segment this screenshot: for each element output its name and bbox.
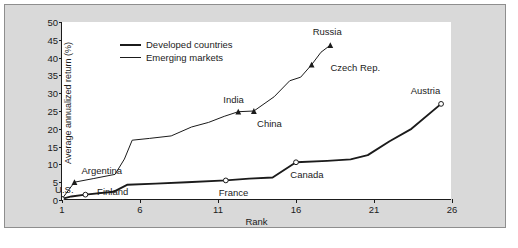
x-tick-label: 21 [369,204,380,215]
x-tick-label: 1 [59,204,64,215]
data-point-marker [327,42,333,48]
data-point-marker [62,197,64,200]
y-tick-label: 15 [36,141,58,152]
legend-item: Emerging markets [120,51,233,64]
legend-item: Developed countries [120,38,233,51]
point-label: Finland [97,185,128,196]
y-tick-label: 20 [36,123,58,134]
x-tick-label: 6 [137,204,142,215]
x-tick-label: 16 [291,204,302,215]
data-point-marker [223,178,228,183]
figure-panel: Average annualized return (%) 0510152025… [4,4,506,228]
y-tick-label: 0 [36,195,58,206]
data-point-marker [83,192,88,197]
data-point-marker [294,160,299,165]
point-label: India [223,93,244,104]
chart-screenshot: Average annualized return (%) 0510152025… [0,0,518,248]
y-tick-label: 50 [36,17,58,28]
point-label: China [257,118,282,129]
point-label: Czech Rep. [330,62,380,73]
point-label: U.S. [55,183,73,194]
x-tick-label: 11 [213,204,223,215]
y-tick-label: 30 [36,88,58,99]
y-tick-label: 25 [36,106,58,117]
y-tick-label: 35 [36,70,58,81]
data-point-marker [439,101,444,106]
point-label: Argentina [81,165,122,176]
point-label: Austria [411,85,441,96]
point-label: Russia [313,26,342,37]
x-axis-title: Rank [62,216,451,227]
legend-label: Developed countries [146,39,233,50]
point-label: Canada [290,169,323,180]
legend-label: Emerging markets [146,52,223,63]
legend-line-swatch [120,57,141,58]
chart-legend: Developed countriesEmerging markets [120,38,233,64]
x-tick-label: 26 [447,204,458,215]
y-tick-label: 40 [36,52,58,63]
legend-line-swatch [120,44,141,46]
x-tick-mark [452,199,453,203]
plot-area: Average annualized return (%) 0510152025… [61,22,451,200]
point-label: France [219,186,249,197]
y-tick-label: 45 [36,34,58,45]
y-tick-label: 10 [36,159,58,170]
